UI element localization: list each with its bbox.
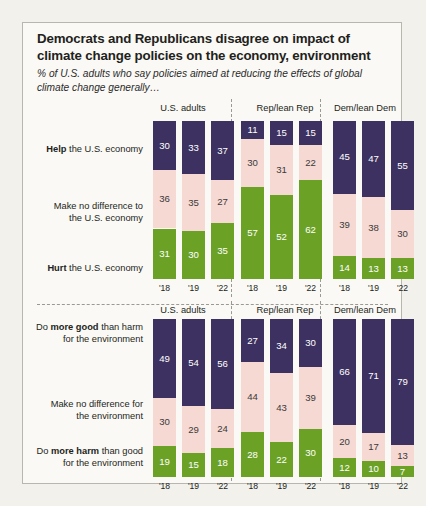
- row-label-more-good-l2: for the environment: [33, 333, 143, 345]
- row-label-help-rest: the U.S. economy: [67, 144, 143, 154]
- year-tick-label: '18: [241, 283, 264, 293]
- bar-segment-nav: 56: [211, 319, 234, 409]
- stacked-bar-u-s-adults-19: 542915: [182, 319, 205, 477]
- row-label-hurt: Hurt the U.S. economy: [37, 262, 143, 274]
- panel-title-us-adults: U.S. adults: [137, 103, 229, 113]
- row-label-more-good-post: than harm: [99, 322, 143, 332]
- year-tick-label: '19: [362, 481, 385, 491]
- bar-segment-grn: 7: [391, 466, 414, 477]
- year-tick-label: '19: [362, 283, 385, 293]
- bar-segment-pink: 27: [211, 180, 234, 223]
- bar-segment-grn: 52: [270, 195, 293, 279]
- row-label-nodiff-environment: Make no difference for the environment: [33, 398, 143, 422]
- bar-segment-nav: 11: [241, 121, 264, 139]
- stacked-bar-dem-lean-dem-18: 662012: [333, 319, 356, 477]
- year-tick-label: '19: [182, 283, 205, 293]
- bar-segment-nav: 15: [270, 121, 293, 145]
- row-label-more-harm-post: than good: [99, 446, 143, 456]
- row-label-more-good-l1: Do more good than harm: [33, 321, 143, 333]
- year-tick-label: '19: [270, 481, 293, 491]
- bar-segment-nav: 47: [362, 121, 385, 197]
- row-label-nodiff-economy: Make no difference to the U.S. economy: [37, 200, 143, 224]
- bar-segment-nav: 30: [299, 319, 322, 367]
- year-tick-label: '19: [270, 283, 293, 293]
- year-tick-label: '22: [391, 283, 414, 293]
- year-tick-label: '18: [153, 481, 176, 491]
- bar-segment-nav: 33: [182, 121, 205, 174]
- row-label-more-harm-l1: Do more harm than good: [33, 445, 143, 457]
- bar-segment-grn: 31: [153, 229, 176, 279]
- bar-segment-nav: 15: [299, 121, 322, 145]
- bar-segment-grn: 30: [182, 231, 205, 279]
- row-label-more-harm-bold: more harm: [51, 446, 99, 456]
- year-tick-label: '18: [333, 283, 356, 293]
- bar-segment-grn: 14: [333, 256, 356, 279]
- year-tick-label: '18: [153, 283, 176, 293]
- stacked-bar-rep-lean-rep-18: 274428: [241, 319, 264, 477]
- stacked-bar-dem-lean-dem-19: 711710: [362, 319, 385, 477]
- bar-segment-grn: 22: [270, 442, 293, 477]
- bar-segment-pink: 36: [153, 170, 176, 229]
- bar-segment-grn: 13: [362, 258, 385, 279]
- bar-segment-nav: 34: [270, 319, 293, 373]
- chart-environment: U.S. adults Rep/lean Rep Dem/lean Dem Do…: [23, 305, 401, 483]
- bar-segment-nav: 55: [391, 121, 414, 210]
- page-title: Democrats and Republicans disagree on im…: [37, 31, 389, 64]
- bar-segment-pink: 22: [299, 145, 322, 180]
- row-label-more-good-pre: Do: [36, 322, 50, 332]
- bar-segment-grn: 12: [333, 458, 356, 477]
- row-label-more-good: Do more good than harm for the environme…: [33, 321, 143, 345]
- bar-segment-pink: 17: [362, 433, 385, 460]
- panel-title-dem: Dem/lean Dem: [327, 103, 403, 113]
- stacked-bar-u-s-adults-22: 562418: [211, 319, 234, 477]
- stacked-bar-rep-lean-rep-19: 153152: [270, 121, 293, 279]
- bar-segment-nav: 49: [153, 319, 176, 398]
- bar-segment-grn: 10: [362, 461, 385, 477]
- bar-segment-nav: 30: [153, 121, 176, 170]
- stacked-bar-rep-lean-rep-19: 344322: [270, 319, 293, 477]
- bar-segment-grn: 13: [391, 258, 414, 279]
- stacked-bar-dem-lean-dem-18: 453914: [333, 121, 356, 279]
- stacked-bar-u-s-adults-19: 333530: [182, 121, 205, 279]
- infographic-frame: Democrats and Republicans disagree on im…: [22, 22, 402, 484]
- stacked-bar-rep-lean-rep-22: 303930: [299, 319, 322, 477]
- stacked-bar-rep-lean-rep-22: 152262: [299, 121, 322, 279]
- bar-segment-pink: 39: [333, 194, 356, 257]
- bar-segment-pink: 24: [211, 409, 234, 448]
- bar-segment-grn: 18: [211, 448, 234, 477]
- stacked-bar-rep-lean-rep-18: 113057: [241, 121, 264, 279]
- year-tick-label: '18: [241, 481, 264, 491]
- bar-segment-nav: 37: [211, 121, 234, 180]
- bar-segment-grn: 15: [182, 453, 205, 477]
- panel-title-us-adults-2: U.S. adults: [137, 305, 229, 315]
- row-label-more-good-bold: more good: [51, 322, 99, 332]
- stacked-bar-u-s-adults-22: 372735: [211, 121, 234, 279]
- chart-subtitle: % of U.S. adults who say policies aimed …: [37, 67, 389, 94]
- row-label-nodiff-environment-l1: Make no difference for: [33, 398, 143, 410]
- row-label-more-harm-pre: Do: [37, 446, 51, 456]
- row-label-help-bold: Help: [46, 144, 66, 154]
- stacked-bar-dem-lean-dem-22: 553013: [391, 121, 414, 279]
- panel-title-dem-2: Dem/lean Dem: [327, 305, 403, 315]
- year-tick-label: '18: [333, 481, 356, 491]
- bar-segment-nav: 45: [333, 121, 356, 194]
- year-tick-label: '22: [299, 481, 322, 491]
- row-label-hurt-bold: Hurt: [47, 263, 66, 273]
- year-tick-label: '22: [211, 283, 234, 293]
- bar-segment-nav: 71: [362, 319, 385, 433]
- bar-segment-nav: 27: [241, 319, 264, 362]
- bar-segment-pink: 31: [270, 145, 293, 195]
- year-tick-label: '22: [299, 283, 322, 293]
- bar-segment-pink: 44: [241, 362, 264, 432]
- bar-segment-grn: 62: [299, 180, 322, 279]
- row-label-nodiff-environment-l2: the environment: [33, 410, 143, 422]
- stacked-bar-dem-lean-dem-19: 473813: [362, 121, 385, 279]
- bar-segment-pink: 43: [270, 373, 293, 442]
- bar-segment-pink: 39: [299, 367, 322, 429]
- panel-title-rep: Rep/lean Rep: [239, 103, 331, 113]
- stacked-bar-u-s-adults-18: 303631: [153, 121, 176, 279]
- bar-segment-grn: 30: [299, 429, 322, 477]
- bar-segment-nav: 66: [333, 319, 356, 425]
- row-label-nodiff-economy-l1: Make no difference to: [37, 200, 143, 212]
- chart-economy: U.S. adults Rep/lean Rep Dem/lean Dem He…: [23, 103, 401, 303]
